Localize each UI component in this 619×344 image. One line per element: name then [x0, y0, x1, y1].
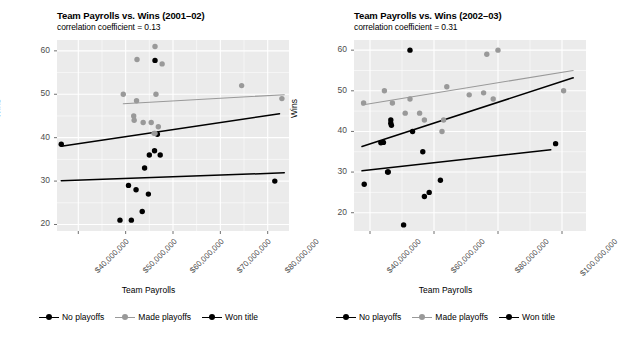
data-point: [121, 92, 126, 97]
data-point: [422, 117, 427, 122]
data-point: [126, 183, 131, 188]
data-point: [390, 100, 395, 105]
data-point: [362, 182, 367, 187]
data-point: [142, 165, 147, 170]
data-point: [382, 88, 387, 93]
legend-dot-swatch: [343, 314, 349, 320]
y-tick-label: 30: [26, 175, 50, 185]
y-tick-label: 60: [26, 45, 50, 55]
data-point: [361, 100, 366, 105]
y-tick-label: 20: [26, 218, 50, 228]
data-point: [146, 191, 151, 196]
data-point: [495, 47, 500, 52]
data-point: [481, 90, 486, 95]
data-point: [156, 124, 161, 129]
data-point: [149, 120, 154, 125]
chart-panel-right: Team Payrolls vs. Wins (2002–03) correla…: [297, 0, 594, 344]
legend-item-label: Won title: [225, 312, 258, 322]
data-point: [131, 118, 136, 123]
legend-item-label: No playoffs: [359, 312, 401, 322]
y-tick-label: 50: [323, 85, 347, 95]
data-point: [444, 84, 449, 89]
data-point: [133, 187, 138, 192]
chart-panel-left: Team Payrolls vs. Wins (2001–02) correla…: [0, 0, 297, 344]
data-point: [378, 140, 383, 145]
y-tick-label: 60: [323, 44, 347, 54]
legend-item[interactable]: No playoffs: [336, 312, 401, 322]
data-point: [140, 120, 145, 125]
data-point: [153, 92, 158, 97]
data-point: [152, 58, 157, 63]
legend-item[interactable]: Won title: [499, 312, 555, 322]
legend-item[interactable]: Won title: [202, 312, 258, 322]
data-point: [117, 217, 122, 222]
data-point: [147, 152, 152, 157]
data-point: [140, 209, 145, 214]
data-point: [134, 57, 139, 62]
legend-item-label: Won title: [522, 312, 555, 322]
data-point: [159, 61, 164, 66]
legend-right: No playoffsMade playoffsWon title: [297, 312, 594, 322]
data-point: [410, 129, 415, 134]
legend-dot-swatch: [506, 314, 512, 320]
data-point: [152, 131, 157, 136]
data-point: [422, 194, 427, 199]
legend-key-icon: [202, 313, 222, 322]
legend-key-icon: [115, 313, 135, 322]
data-point: [386, 169, 391, 174]
data-point: [152, 148, 157, 153]
data-point: [272, 178, 277, 183]
legend-item[interactable]: No playoffs: [39, 312, 104, 322]
data-point: [407, 96, 412, 101]
data-point: [407, 47, 412, 52]
data-point: [129, 217, 134, 222]
legend-item-label: Made playoffs: [138, 312, 191, 322]
y-tick-label: 20: [323, 207, 347, 217]
panel-background-right: [354, 40, 586, 231]
legend-dot-swatch: [46, 314, 52, 320]
data-point: [417, 110, 422, 115]
legend-dot-swatch: [209, 314, 215, 320]
data-point: [401, 222, 406, 227]
legend-item-label: No playoffs: [62, 312, 104, 322]
data-point: [158, 152, 163, 157]
legend-item-label: Made playoffs: [435, 312, 488, 322]
data-point: [439, 129, 444, 134]
legend-dot-swatch: [419, 314, 425, 320]
data-point: [279, 96, 284, 101]
y-tick-label: 40: [26, 132, 50, 142]
data-point: [484, 52, 489, 57]
data-point: [553, 141, 558, 146]
legend-key-icon: [336, 313, 356, 322]
data-point: [420, 149, 425, 154]
data-point: [239, 83, 244, 88]
data-point: [561, 88, 566, 93]
data-point: [134, 98, 139, 103]
y-tick-label: 40: [323, 125, 347, 135]
data-point: [491, 96, 496, 101]
legend-dot-swatch: [122, 314, 128, 320]
legend-item[interactable]: Made playoffs: [412, 312, 488, 322]
data-point: [403, 110, 408, 115]
data-point: [467, 92, 472, 97]
legend-left: No playoffsMade playoffsWon title: [0, 312, 297, 322]
data-point: [389, 123, 394, 128]
data-point: [441, 117, 446, 122]
data-point: [438, 178, 443, 183]
y-tick-label: 30: [323, 166, 347, 176]
data-point: [152, 44, 157, 49]
legend-key-icon: [412, 313, 432, 322]
y-tick-label: 50: [26, 88, 50, 98]
legend-key-icon: [499, 313, 519, 322]
data-point: [59, 141, 64, 146]
data-point: [427, 190, 432, 195]
legend-key-icon: [39, 313, 59, 322]
legend-item[interactable]: Made playoffs: [115, 312, 191, 322]
